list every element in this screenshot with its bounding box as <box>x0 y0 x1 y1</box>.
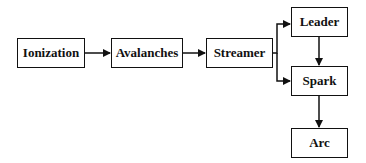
node-ionization: Ionization <box>17 38 85 68</box>
node-arc: Arc <box>291 128 348 158</box>
node-streamer: Streamer <box>206 38 273 68</box>
arrow-streamer-spark <box>277 53 290 81</box>
node-leader: Leader <box>291 7 348 37</box>
node-spark: Spark <box>291 66 348 96</box>
arrow-streamer-leader <box>272 24 290 53</box>
node-avalanches: Avalanches <box>111 38 183 68</box>
